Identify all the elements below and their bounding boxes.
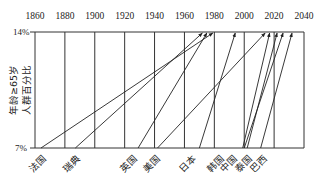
arrow-6 — [244, 33, 283, 148]
country-label-4: 日本 — [177, 153, 199, 175]
aging-transition-chart: 1860188019001920194019601980200020202040… — [0, 0, 319, 186]
x-tick-2000: 2000 — [235, 11, 254, 21]
x-tick-1940: 1940 — [145, 11, 164, 21]
arrow-3 — [158, 33, 266, 148]
y-tick-14: 14% — [13, 27, 30, 37]
y-tick-7: 7% — [15, 143, 28, 153]
arrow-4 — [199, 33, 235, 148]
x-tick-1920: 1920 — [115, 11, 134, 21]
y-axis-title: 年龄≥65岁 人群百分比 — [8, 65, 32, 115]
y-axis-title-line1: 年龄≥65岁 — [8, 65, 19, 115]
x-tick-1900: 1900 — [85, 11, 104, 21]
country-label-0: 法国 — [27, 153, 49, 175]
x-tick-1980: 1980 — [205, 11, 224, 21]
country-label-1: 瑞典 — [61, 153, 83, 175]
country-label-3: 美国 — [141, 153, 163, 175]
country-label-8: 巴西 — [248, 153, 270, 175]
x-tick-2020: 2020 — [265, 11, 284, 21]
country-label-2: 英国 — [118, 153, 140, 175]
x-tick-2040: 2040 — [295, 11, 314, 21]
x-axis-ticks: 1860188019001920194019601980200020202040 — [26, 11, 314, 21]
arrow-0 — [41, 33, 213, 148]
x-tick-1880: 1880 — [55, 11, 74, 21]
x-tick-1860: 1860 — [26, 11, 45, 21]
country-labels: 法国瑞典英国美国日本韩国中国泰国巴西 — [27, 153, 270, 175]
country-arrows — [41, 33, 292, 148]
arrow-7 — [247, 33, 277, 148]
x-tick-1960: 1960 — [175, 11, 194, 21]
arrow-2 — [138, 33, 207, 148]
y-axis-title-line2: 人群百分比 — [21, 65, 32, 115]
